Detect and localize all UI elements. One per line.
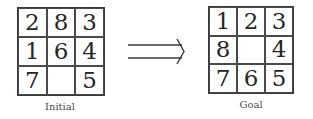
initial-tile-8: 5 <box>75 66 104 95</box>
goal-tile-0: 1 <box>209 7 237 36</box>
initial-state-grid: 2 8 3 1 6 4 7 5 <box>17 7 105 96</box>
goal-tile-5: 4 <box>265 36 293 65</box>
initial-label: Initial <box>30 101 90 112</box>
goal-tile-6: 7 <box>209 64 237 93</box>
goal-tile-8: 5 <box>265 64 293 93</box>
goal-label: Goal <box>221 99 281 110</box>
goal-tile-7: 6 <box>237 64 265 93</box>
initial-tile-3: 1 <box>18 37 47 66</box>
goal-tile-1: 2 <box>237 7 265 36</box>
goal-tile-blank <box>237 36 265 65</box>
goal-state-grid: 1 2 3 8 4 7 6 5 <box>208 6 294 94</box>
initial-tile-2: 3 <box>75 8 104 37</box>
initial-tile-5: 4 <box>75 37 104 66</box>
goal-tile-3: 8 <box>209 36 237 65</box>
initial-tile-1: 8 <box>47 8 76 37</box>
initial-tile-0: 2 <box>18 8 47 37</box>
initial-tile-blank <box>47 66 76 95</box>
initial-tile-4: 6 <box>47 37 76 66</box>
goal-tile-2: 3 <box>265 7 293 36</box>
initial-tile-6: 7 <box>18 66 47 95</box>
double-right-arrow-icon <box>124 38 190 66</box>
